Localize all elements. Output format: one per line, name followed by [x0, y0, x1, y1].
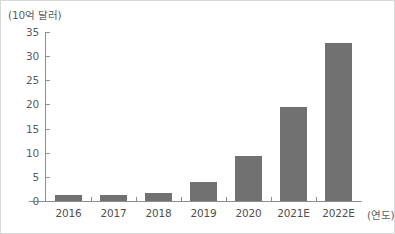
bar-2017 [100, 195, 127, 201]
plot-area [45, 32, 361, 201]
y-axis-tick-label: 20 [5, 98, 39, 110]
bar-2022E [325, 43, 352, 201]
y-axis-tick-label: 15 [5, 123, 39, 135]
y-axis-tick-label: 35 [5, 26, 39, 38]
x-axis-tick-label: 2022E [322, 207, 354, 219]
x-axis-tick-label: 2018 [146, 207, 172, 219]
bar-2018 [145, 193, 172, 201]
x-axis-tick-label: 2016 [56, 207, 82, 219]
x-axis-tick-label: 2020 [236, 207, 262, 219]
bar-2021E [280, 107, 307, 201]
y-axis-tick-label: 10 [5, 147, 39, 159]
x-axis-tick-label: 2021E [277, 207, 309, 219]
y-axis-tick-label: 0 [5, 195, 39, 207]
y-axis-tick-label: 5 [5, 171, 39, 183]
x-axis-tick-label: 2019 [191, 207, 217, 219]
x-axis-line [29, 201, 362, 202]
y-axis-tick [45, 201, 50, 202]
y-axis-tick-label: 25 [5, 74, 39, 86]
chart-page: (10억 달러) 05101520253035 2016201720182019… [0, 0, 395, 234]
x-axis-unit-label: (연도) [367, 207, 394, 222]
x-axis-tick-label: 2017 [101, 207, 127, 219]
bar-2020 [235, 156, 262, 201]
y-axis-unit-label: (10억 달러) [8, 7, 61, 22]
bar-2019 [190, 182, 217, 201]
y-axis-tick-label: 30 [5, 50, 39, 62]
bar-2016 [55, 195, 82, 201]
